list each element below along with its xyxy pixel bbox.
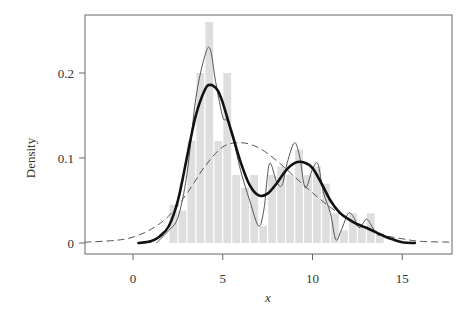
- histogram-bar: [232, 175, 240, 243]
- histogram-bar: [250, 175, 258, 243]
- x-axis-title: x: [264, 290, 271, 305]
- x-tick-label: 10: [306, 271, 319, 286]
- histogram-bar: [304, 175, 312, 243]
- histogram-bar: [178, 211, 186, 243]
- histogram-bar: [223, 73, 231, 243]
- x-tick-label: 5: [220, 271, 227, 286]
- histogram-bars: [170, 22, 384, 243]
- x-tick-label: 15: [396, 271, 409, 286]
- histogram-bar: [259, 226, 267, 243]
- histogram-bar: [286, 175, 294, 243]
- y-tick-label: 0: [68, 236, 75, 251]
- density-histogram-chart: 051015 00.10.2 x Density: [0, 0, 472, 318]
- histogram-bar: [358, 226, 366, 243]
- histogram-bar: [214, 141, 222, 243]
- y-tick-label: 0.1: [58, 151, 74, 166]
- y-tick-label: 0.2: [58, 66, 74, 81]
- x-tick-label: 0: [130, 271, 137, 286]
- histogram-bar: [349, 213, 357, 243]
- histogram-bar: [340, 230, 348, 243]
- y-axis: 00.10.2: [58, 66, 85, 251]
- x-axis: 051015: [130, 254, 409, 286]
- y-axis-title: Density: [23, 137, 38, 178]
